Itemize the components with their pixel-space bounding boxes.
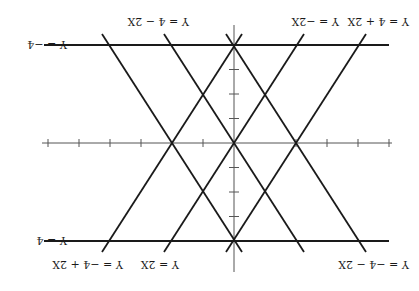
line-diagram: Y = 4 + 2X Y = −2X Y = 4 − 2X Y = −4 Y =… bbox=[0, 0, 419, 291]
x-axis bbox=[42, 139, 392, 147]
label-y-eq-neg4-plus-2x: Y = −4 + 2X bbox=[52, 258, 124, 271]
label-y-eq-neg4-minus-2x: Y = −4 − 2X bbox=[338, 258, 410, 271]
label-y-eq-4-plus-2x: Y = 4 + 2X bbox=[347, 15, 410, 28]
label-y-eq-4-minus-2x: Y = 4 − 2X bbox=[127, 15, 190, 28]
label-y-eq-4: Y = 4 bbox=[37, 234, 68, 247]
label-y-eq-2x: Y = 2X bbox=[141, 258, 180, 271]
label-y-eq-neg2x: Y = −2X bbox=[291, 15, 340, 28]
label-y-eq-neg4: Y = −4 bbox=[27, 38, 68, 51]
